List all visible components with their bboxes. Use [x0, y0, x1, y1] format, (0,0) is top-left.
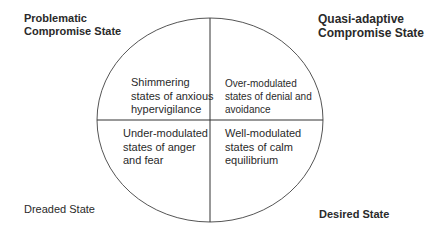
- quadrant-text-line: Well-modulated: [225, 127, 301, 141]
- corner-label-line: Compromise State: [24, 25, 121, 38]
- quadrant-text-line: states of denial and: [225, 90, 312, 103]
- quadrant-text-line: states of anxious: [131, 90, 214, 104]
- corner-label-text: Desired State: [319, 208, 389, 220]
- quadrant-top-left: Shimmering states of anxious hypervigila…: [131, 76, 214, 117]
- quadrant-text-line: equilibrium: [225, 154, 301, 168]
- quadrant-text-line: states of anger: [123, 141, 208, 155]
- corner-label-problematic: Problematic Compromise State: [24, 12, 121, 38]
- corner-label-text: Dreaded State: [24, 203, 95, 215]
- quadrant-text-line: Shimmering: [131, 76, 214, 90]
- quadrant-text-line: hypervigilance: [131, 103, 214, 117]
- corner-label-line: Compromise State: [318, 26, 424, 40]
- state-diagram: Problematic Compromise State Quasi-adapt…: [0, 0, 435, 237]
- corner-label-quasi-adaptive: Quasi-adaptive Compromise State: [318, 12, 424, 40]
- quadrant-text-line: states of calm: [225, 141, 301, 155]
- quadrant-text-line: avoidance: [225, 103, 312, 116]
- corner-label-line: Quasi-adaptive: [318, 12, 424, 26]
- corner-label-line: Problematic: [24, 12, 121, 25]
- quadrant-bottom-left: Under-modulated states of anger and fear: [123, 127, 208, 168]
- quadrant-text-line: Under-modulated: [123, 127, 208, 141]
- corner-label-dreaded: Dreaded State: [24, 203, 95, 216]
- quadrant-text-line: and fear: [123, 154, 208, 168]
- quadrant-bottom-right: Well-modulated states of calm equilibriu…: [225, 127, 301, 168]
- quadrant-top-right: Over-modulated states of denial and avoi…: [225, 77, 312, 116]
- corner-label-desired: Desired State: [319, 208, 389, 221]
- quadrant-text-line: Over-modulated: [225, 77, 312, 90]
